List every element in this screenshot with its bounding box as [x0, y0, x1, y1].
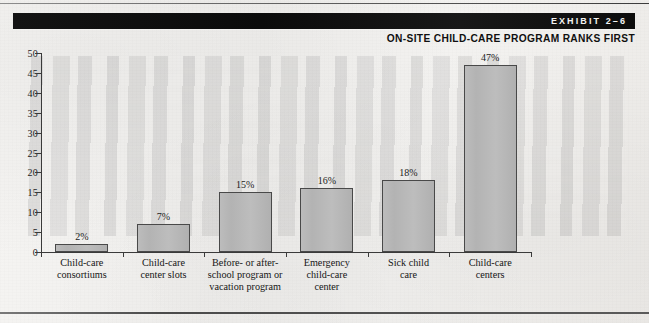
y-axis-tick-mark	[35, 192, 41, 193]
y-axis-tick-mark	[35, 73, 41, 74]
y-axis-line	[41, 53, 42, 252]
x-axis-tick-mark	[123, 252, 124, 257]
x-axis-tick-mark	[204, 252, 205, 257]
bar	[137, 224, 190, 252]
bar	[300, 188, 353, 252]
y-axis-tick-mark	[35, 212, 41, 213]
bottom-rule-line	[0, 312, 649, 314]
y-axis-tick-mark	[35, 133, 41, 134]
x-axis-tick-mark	[286, 252, 287, 257]
bar-value-label: 15%	[236, 179, 254, 190]
bar	[55, 244, 108, 252]
x-axis-tick-mark	[41, 252, 42, 257]
x-axis-tick-mark	[368, 252, 369, 257]
bar-value-label: 47%	[481, 52, 499, 63]
y-axis-tick-mark	[35, 53, 41, 54]
bar-value-label: 18%	[399, 167, 417, 178]
bar-value-label: 16%	[318, 175, 336, 186]
x-axis-tick-mark	[531, 252, 532, 257]
y-axis-tick-mark	[35, 172, 41, 173]
y-axis-tick-mark	[35, 153, 41, 154]
x-axis-category-label: Child-care centers	[437, 257, 543, 281]
bar-value-label: 2%	[75, 231, 88, 242]
bar-chart: 05101520253035404550 2%7%15%16%18%47% Ch…	[0, 0, 649, 323]
y-axis-tick-mark	[35, 232, 41, 233]
x-axis-tick-mark	[449, 252, 450, 257]
bar	[219, 192, 272, 252]
bar	[382, 180, 435, 252]
y-axis-tick-mark	[35, 93, 41, 94]
bar	[464, 65, 517, 252]
bar-value-label: 7%	[157, 211, 170, 222]
y-axis-tick-mark	[35, 113, 41, 114]
